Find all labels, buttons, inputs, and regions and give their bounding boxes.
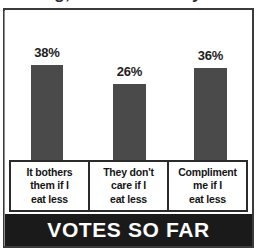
chart-frame: 38% 26% 36% It bothers them if I eat les…	[3, 8, 254, 248]
category-labels-row: It bothers them if I eat less They don't…	[9, 160, 248, 212]
cropped-headline-sliver: Dieting, in a man's way	[0, 0, 262, 8]
bar-group-1: 38%	[31, 10, 63, 160]
bar-3	[194, 68, 227, 160]
category-label-3-line-2: me if I	[178, 179, 237, 192]
category-label-3: Compliment me if I eat less	[167, 162, 246, 210]
category-label-1-line-3: eat less	[27, 193, 73, 206]
bar-2	[113, 84, 146, 160]
category-label-1-line-1: It bothers	[27, 166, 73, 179]
chart-screenshot: Dieting, in a man's way 38% 26% 36% It b…	[0, 0, 262, 251]
bar-group-2: 26%	[113, 10, 146, 160]
bar-value-2: 26%	[117, 64, 142, 79]
category-label-2: They don't care if I eat less	[88, 162, 167, 210]
category-label-2-line-3: eat less	[103, 193, 154, 206]
category-label-1: It bothers them if I eat less	[11, 162, 88, 210]
category-label-3-line-1: Compliment	[178, 166, 237, 179]
votes-banner-title: VOTES SO FAR	[47, 218, 209, 242]
bar-value-1: 38%	[34, 45, 59, 60]
cropped-headline-text: Dieting, in a man's way	[4, 0, 202, 2]
bar-1	[31, 65, 63, 160]
plot-area: 38% 26% 36%	[5, 10, 252, 160]
bar-value-3: 36%	[198, 48, 223, 63]
bar-group-3: 36%	[194, 10, 227, 160]
category-label-2-line-1: They don't	[103, 166, 154, 179]
category-label-1-line-2: them if I	[27, 179, 73, 192]
category-label-3-line-3: eat less	[178, 193, 237, 206]
category-label-2-line-2: care if I	[103, 179, 154, 192]
votes-banner: VOTES SO FAR	[5, 214, 252, 246]
